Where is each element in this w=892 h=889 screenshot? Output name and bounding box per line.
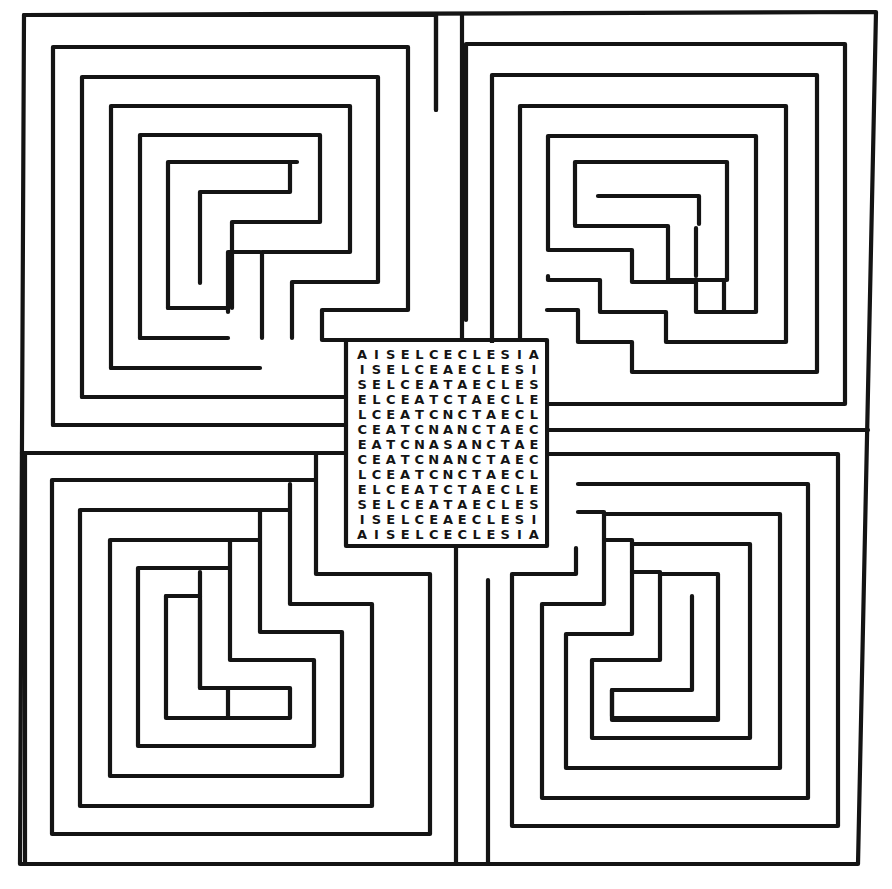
grid-letter: L (412, 527, 426, 542)
grid-letter: E (484, 392, 498, 407)
grid-letter: N (469, 437, 483, 452)
grid-letter: C (498, 482, 512, 497)
grid-letter: C (527, 452, 541, 467)
grid-letter: T (441, 377, 455, 392)
grid-letter: T (384, 437, 398, 452)
grid-letter: L (527, 407, 541, 422)
grid-letter: E (412, 377, 426, 392)
grid-letter: T (398, 422, 412, 437)
grid-letter: T (398, 452, 412, 467)
grid-letter: L (369, 392, 383, 407)
grid-letter: C (369, 407, 383, 422)
grid-letter: T (427, 392, 441, 407)
grid-letter: C (427, 407, 441, 422)
grid-letter: A (441, 512, 455, 527)
grid-letter: S (369, 362, 383, 377)
grid-letter: A (355, 527, 369, 542)
grid-letter: T (412, 467, 426, 482)
grid-letter: C (369, 467, 383, 482)
grid-letter: A (498, 452, 512, 467)
grid-letter: E (369, 497, 383, 512)
grid-letter: E (498, 467, 512, 482)
grid-letter: E (469, 497, 483, 512)
grid-letter: A (412, 482, 426, 497)
grid-letter: E (469, 377, 483, 392)
grid-letter: L (355, 467, 369, 482)
grid-letter: C (427, 347, 441, 362)
grid-letter: E (369, 452, 383, 467)
grid-letter: A (484, 467, 498, 482)
grid-letter: T (498, 437, 512, 452)
grid-letter: N (441, 407, 455, 422)
grid-letter: L (398, 512, 412, 527)
grid-letter: T (484, 422, 498, 437)
grid-letter: A (427, 437, 441, 452)
grid-letter: S (527, 497, 541, 512)
grid-letter: A (455, 497, 469, 512)
grid-letter: C (469, 422, 483, 437)
grid-letter: I (355, 512, 369, 527)
grid-letter: E (355, 482, 369, 497)
grid-letter: A (469, 392, 483, 407)
grid-letter: S (512, 362, 526, 377)
grid-letter: S (355, 377, 369, 392)
grid-letter: A (441, 362, 455, 377)
grid-letter: C (398, 377, 412, 392)
grid-letter: T (484, 452, 498, 467)
grid-letter: C (527, 422, 541, 437)
grid-letter: A (498, 422, 512, 437)
grid-letter: A (384, 452, 398, 467)
grid-letter: C (484, 377, 498, 392)
grid-letter: I (527, 512, 541, 527)
grid-letter: E (427, 512, 441, 527)
grid-letter: C (484, 437, 498, 452)
grid-letter: E (512, 497, 526, 512)
grid-letter: E (441, 347, 455, 362)
grid-letter: E (384, 467, 398, 482)
grid-letter: S (384, 527, 398, 542)
grid-letter: E (512, 422, 526, 437)
grid-letter: E (455, 512, 469, 527)
grid-letter: C (441, 392, 455, 407)
grid-letter: L (484, 512, 498, 527)
grid-letter: N (427, 452, 441, 467)
grid-letter: I (512, 527, 526, 542)
grid-letter: A (512, 437, 526, 452)
grid-letter: E (484, 527, 498, 542)
grid-letter: L (512, 392, 526, 407)
grid-letter: L (512, 482, 526, 497)
grid-letter: A (355, 347, 369, 362)
grid-letter: C (455, 407, 469, 422)
grid-letter: L (384, 497, 398, 512)
grid-letter: A (369, 437, 383, 452)
grid-letter: T (469, 467, 483, 482)
grid-letter: E (527, 437, 541, 452)
grid-letter: A (441, 452, 455, 467)
grid-letter: E (398, 482, 412, 497)
grid-letter: E (398, 392, 412, 407)
grid-letter: L (498, 497, 512, 512)
grid-letter: E (384, 407, 398, 422)
grid-letter: I (512, 347, 526, 362)
grid-letter: I (369, 527, 383, 542)
grid-letter: T (412, 407, 426, 422)
grid-letter: E (369, 377, 383, 392)
grid-letter: C (441, 482, 455, 497)
grid-letter: C (469, 512, 483, 527)
grid-letter: A (398, 467, 412, 482)
grid-letter: A (412, 392, 426, 407)
grid-letter: A (469, 482, 483, 497)
grid-letter: C (484, 497, 498, 512)
grid-letter: T (455, 482, 469, 497)
grid-letter: S (527, 377, 541, 392)
grid-letter: T (455, 392, 469, 407)
grid-letter: A (427, 377, 441, 392)
grid-letter: C (469, 362, 483, 377)
grid-letter: T (427, 482, 441, 497)
grid-letter: E (498, 512, 512, 527)
grid-letter: S (498, 527, 512, 542)
grid-letter: C (398, 437, 412, 452)
grid-letter: C (455, 527, 469, 542)
grid-letter: C (355, 422, 369, 437)
grid-letter: E (498, 362, 512, 377)
